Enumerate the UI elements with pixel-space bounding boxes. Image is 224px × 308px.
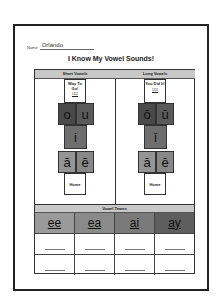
name-field[interactable]: Orlando bbox=[40, 42, 94, 50]
blank-cell[interactable] bbox=[35, 255, 75, 275]
goal-box: Way To Go! 1111 bbox=[64, 79, 86, 103]
short-vowels-column: Short Vowels Way To Go! 1111 o u i ă ĕ H… bbox=[35, 70, 116, 204]
write-line bbox=[125, 249, 145, 250]
tally-marks: 1111 bbox=[145, 88, 165, 93]
vowel-tile-e-long[interactable]: ē bbox=[156, 151, 174, 173]
blank-row bbox=[35, 255, 194, 275]
blank-cell[interactable] bbox=[115, 234, 155, 254]
tally-marks: 1111 bbox=[65, 92, 85, 97]
vowel-tile-a-long[interactable]: ā bbox=[138, 151, 156, 173]
blank-cell[interactable] bbox=[115, 255, 155, 275]
write-line bbox=[125, 270, 145, 271]
vowel-tile-i[interactable]: i bbox=[64, 125, 87, 149]
long-vowels-column: Long Vowels You Did It! 1111 ō ū ī ā ē H… bbox=[115, 70, 195, 204]
write-line bbox=[45, 249, 65, 250]
blank-row bbox=[35, 234, 194, 255]
blank-cell[interactable] bbox=[155, 255, 194, 275]
blank-cell[interactable] bbox=[155, 234, 194, 254]
name-label: Name bbox=[27, 45, 38, 50]
vowel-tile-e[interactable]: ĕ bbox=[76, 151, 94, 173]
vowel-tile-a[interactable]: ă bbox=[58, 151, 76, 173]
worksheet-page: Name Orlando I Know My Vowel Sounds! Sho… bbox=[13, 24, 209, 291]
vowel-grid: Short Vowels Way To Go! 1111 o u i ă ĕ H… bbox=[34, 69, 195, 205]
team-tile-ai[interactable]: ai bbox=[115, 213, 155, 233]
team-tile-ee[interactable]: ee bbox=[35, 213, 75, 233]
write-line bbox=[165, 249, 185, 250]
write-line bbox=[45, 270, 65, 271]
vowel-tile-o-long[interactable]: ō bbox=[138, 103, 156, 125]
short-vowels-header: Short Vowels bbox=[35, 70, 115, 79]
vowel-tile-i-long[interactable]: ī bbox=[144, 125, 167, 149]
vowel-teams-table: Vowel Teams ee ea ai ay bbox=[34, 204, 195, 274]
blank-cell[interactable] bbox=[35, 234, 75, 254]
goal-text: Way To Go! bbox=[68, 81, 82, 91]
vowel-teams-tile-row: ee ea ai ay bbox=[35, 213, 194, 234]
home-box: Home bbox=[144, 173, 166, 195]
goal-text: You Did It! bbox=[145, 81, 165, 86]
blank-cell[interactable] bbox=[75, 234, 115, 254]
vowel-teams-header: Vowel Teams bbox=[35, 205, 194, 213]
team-tile-ay[interactable]: ay bbox=[155, 213, 194, 233]
write-line bbox=[85, 249, 105, 250]
write-line bbox=[85, 270, 105, 271]
long-vowels-header: Long Vowels bbox=[115, 70, 195, 79]
home-box: Home bbox=[64, 173, 86, 195]
write-line bbox=[165, 270, 185, 271]
blank-cell[interactable] bbox=[75, 255, 115, 275]
page-title: I Know My Vowel Sounds! bbox=[15, 55, 207, 62]
vowel-tile-u-long[interactable]: ū bbox=[156, 103, 174, 125]
team-tile-ea[interactable]: ea bbox=[75, 213, 115, 233]
vowel-tile-u[interactable]: u bbox=[76, 103, 94, 125]
vowel-tile-o[interactable]: o bbox=[58, 103, 76, 125]
name-row: Name Orlando bbox=[27, 42, 94, 50]
goal-box: You Did It! 1111 bbox=[144, 79, 166, 103]
